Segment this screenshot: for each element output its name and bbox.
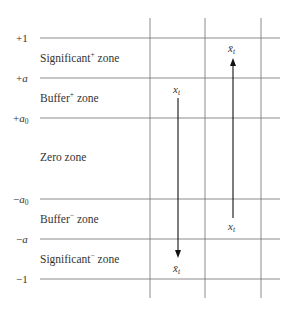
arrow-up-start-label: xt xyxy=(227,220,236,234)
label-plus-a: +a xyxy=(16,72,28,84)
arrow-down-end-label: x̄t xyxy=(172,262,181,276)
zone-diagram: +1 +a +a0 −a0 −a −1 Significant+ zone Bu… xyxy=(0,0,293,313)
zone-significant-minus: Significant− zone xyxy=(40,251,119,266)
label-plus-a0: +a0 xyxy=(13,112,29,126)
label-minus-1: −1 xyxy=(16,273,28,285)
label-minus-a0: −a0 xyxy=(13,193,29,207)
label-minus-a: −a xyxy=(16,233,28,245)
arrow-up: x̄t xt xyxy=(227,42,236,234)
arrow-up-head-icon xyxy=(230,58,236,66)
arrow-up-end-label: x̄t xyxy=(227,42,236,56)
arrow-down: xt x̄t xyxy=(172,83,181,276)
zone-significant-plus: Significant+ zone xyxy=(40,50,119,65)
arrow-down-head-icon xyxy=(175,250,181,258)
arrow-down-start-label: xt xyxy=(172,83,181,97)
zone-zero: Zero zone xyxy=(40,151,86,163)
label-plus-1: +1 xyxy=(16,32,28,44)
vertical-grid-lines xyxy=(150,18,261,298)
zone-buffer-plus: Buffer+ zone xyxy=(40,90,99,104)
zone-buffer-minus: Buffer− zone xyxy=(40,211,99,225)
